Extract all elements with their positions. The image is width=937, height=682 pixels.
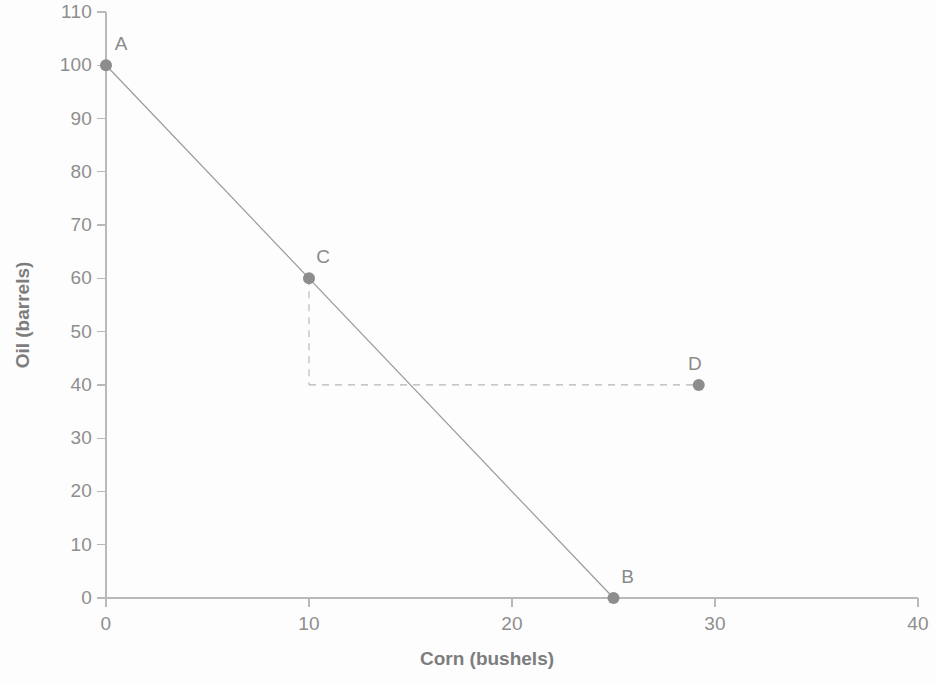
chart-canvas: [0, 0, 937, 682]
y-tick-label: 0: [20, 587, 92, 609]
data-markers: [100, 59, 705, 604]
y-axis-title: Oil (barrels): [12, 262, 34, 369]
data-point-marker: [608, 592, 620, 604]
y-tick-label: 20: [20, 480, 92, 502]
data-point-label: D: [688, 353, 702, 375]
axes: [97, 12, 918, 607]
y-tick-label: 10: [20, 534, 92, 556]
y-tick-label: 70: [20, 214, 92, 236]
chart-figure: 0102030405060708090100110 010203040 ACBD…: [0, 0, 937, 682]
x-tick-label: 10: [298, 613, 320, 635]
data-point-marker: [693, 379, 705, 391]
x-tick-label: 0: [101, 613, 112, 635]
data-point-label: A: [115, 33, 128, 55]
data-point-label: C: [316, 246, 330, 268]
x-tick-label: 20: [501, 613, 523, 635]
y-tick-label: 90: [20, 108, 92, 130]
ppf-line: [106, 65, 614, 598]
data-series: [106, 65, 699, 598]
x-tick-label: 30: [704, 613, 726, 635]
y-tick-label: 100: [20, 54, 92, 76]
y-tick-label: 110: [20, 1, 92, 23]
y-tick-label: 40: [20, 374, 92, 396]
data-point-marker: [100, 59, 112, 71]
x-axis-title: Corn (bushels): [420, 648, 554, 670]
y-tick-label: 80: [20, 161, 92, 183]
data-point-marker: [303, 272, 315, 284]
data-point-label: B: [621, 566, 634, 588]
x-tick-label: 40: [907, 613, 929, 635]
y-tick-label: 30: [20, 427, 92, 449]
